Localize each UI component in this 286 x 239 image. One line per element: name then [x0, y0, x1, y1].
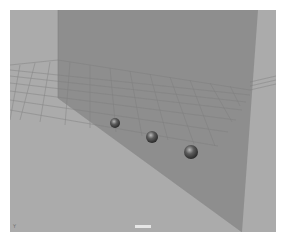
sphere-1[interactable] — [110, 118, 120, 128]
3d-viewport[interactable]: Y persp — [10, 10, 276, 232]
scene-canvas[interactable] — [10, 10, 276, 232]
axis-indicator: Y — [13, 224, 16, 229]
camera-label: persp — [135, 225, 151, 228]
sphere-2[interactable] — [146, 131, 158, 143]
sphere-3[interactable] — [184, 145, 198, 159]
